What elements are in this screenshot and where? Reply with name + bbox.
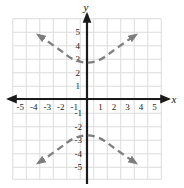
y-tick-label: 1 <box>76 81 81 91</box>
y-tick-label: -2 <box>75 122 83 132</box>
x-tick-label: 3 <box>125 102 130 112</box>
coordinate-plane: x y -5 -4 -3 -2 -1 1 2 3 4 5 5 4 3 2 1 -… <box>0 0 184 188</box>
x-tick-label: 5 <box>152 102 157 112</box>
y-tick-label: -5 <box>75 162 83 172</box>
axis-lines <box>8 14 169 184</box>
y-tick-label: -1 <box>75 108 83 118</box>
x-tick-label: -5 <box>17 102 25 112</box>
x-tick-label: 4 <box>139 102 144 112</box>
x-tick-label: -2 <box>57 102 65 112</box>
hyperbola-graph-figure: x y -5 -4 -3 -2 -1 1 2 3 4 5 5 4 3 2 1 -… <box>0 0 184 188</box>
x-tick-label: 1 <box>98 102 103 112</box>
x-tick-label: 2 <box>112 102 117 112</box>
x-tick-label: -3 <box>44 102 52 112</box>
x-axis-label: x <box>171 93 177 105</box>
y-tick-label: 2 <box>76 68 81 78</box>
y-tick-label: 4 <box>76 41 81 51</box>
y-tick-label: 5 <box>76 27 81 37</box>
x-tick-label: -4 <box>30 102 38 112</box>
y-tick-label: -4 <box>75 149 83 159</box>
y-axis-label: y <box>83 1 89 13</box>
